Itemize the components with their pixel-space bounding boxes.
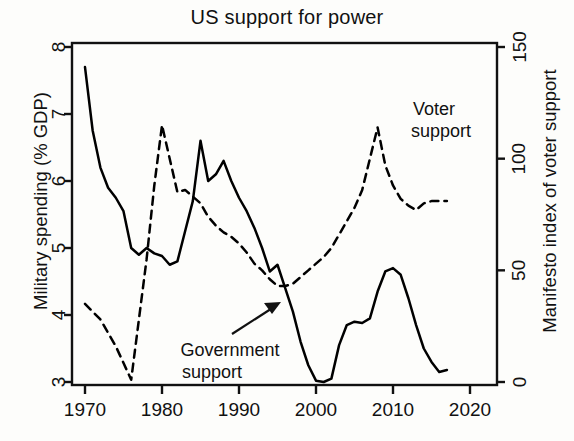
series-layer: [85, 67, 447, 382]
y-tick-label-right: 50: [509, 260, 530, 281]
y-axis-right-ticks: 050100150: [497, 31, 530, 387]
axis-frame: [72, 43, 497, 385]
x-tick-label: 1990: [218, 399, 260, 420]
annotation-voter-support-line1: Voter: [413, 99, 455, 119]
x-tick-label: 2010: [372, 399, 414, 420]
y-axis-left-ticks: 345678: [48, 42, 73, 388]
x-tick-label: 1970: [64, 399, 106, 420]
x-tick-label: 1980: [141, 399, 183, 420]
chart-container: US support for power Military spending (…: [0, 0, 574, 441]
x-axis-ticks: 197019801990200020102020: [64, 385, 491, 420]
y-tick-label-left: 8: [48, 42, 69, 53]
y-tick-label-right: 150: [509, 31, 530, 63]
annotation-voter-support-line2: support: [411, 121, 471, 141]
x-tick-label: 2020: [449, 399, 491, 420]
series-line-government-support: [85, 67, 447, 382]
y-tick-label-right: 0: [509, 377, 530, 388]
y-tick-label-left: 3: [48, 377, 69, 388]
annotation-government-support-line1: Government: [180, 340, 279, 360]
y-tick-label-left: 7: [48, 109, 69, 120]
y-tick-label-left: 5: [48, 243, 69, 254]
y-tick-label-left: 6: [48, 176, 69, 187]
y-tick-label-left: 4: [48, 309, 69, 320]
annotation-government-support-line2: support: [182, 362, 242, 382]
annotation-layer: VotersupportGovernmentsupport: [180, 99, 471, 382]
x-tick-label: 2000: [295, 399, 337, 420]
plot-area: 345678 050100150 19701980199020002010202…: [0, 0, 574, 441]
y-tick-label-right: 100: [509, 143, 530, 175]
